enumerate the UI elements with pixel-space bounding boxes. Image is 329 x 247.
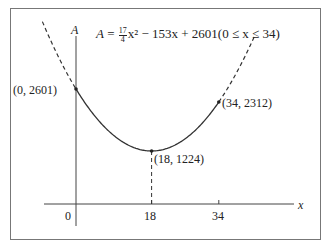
point-label-vertex: (18, 1224) bbox=[154, 153, 204, 165]
formula-eq: = bbox=[107, 26, 114, 41]
x-tick-18: 18 bbox=[144, 210, 156, 222]
data-point bbox=[74, 87, 78, 91]
data-point bbox=[217, 100, 221, 104]
x-axis-label: x bbox=[298, 199, 303, 211]
formula-rest: x² − 153x + 2601(0 ≤ x ≤ 34) bbox=[128, 26, 280, 41]
point-label-start: (0, 2601) bbox=[13, 84, 57, 96]
x-tick-34: 34 bbox=[212, 210, 224, 222]
curve-dashed-right bbox=[219, 37, 254, 102]
chart-title-formula: A = 17 4 x² − 153x + 2601(0 ≤ x ≤ 34) bbox=[96, 26, 280, 44]
point-label-end: (34, 2312) bbox=[222, 97, 272, 109]
y-axis-label: A bbox=[71, 24, 78, 36]
data-point bbox=[150, 149, 154, 153]
curve-solid bbox=[76, 89, 219, 151]
x-tick-0: 0 bbox=[65, 210, 71, 222]
fraction-denominator: 4 bbox=[119, 36, 127, 44]
formula-lhs: A bbox=[96, 26, 104, 41]
formula-fraction: 17 4 bbox=[119, 27, 127, 44]
